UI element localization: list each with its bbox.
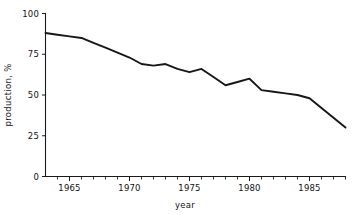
y-tick-label-50: 50 [28,90,39,100]
x-tick-label-1975: 1975 [178,183,200,193]
x-axis-title: year [175,200,195,210]
x-tick-label-1980: 1980 [238,183,260,193]
x-tick-label-1970: 1970 [118,183,140,193]
y-tick-label-0: 0 [33,172,39,182]
x-axis-ticks [58,177,346,182]
y-axis-title: production, % [3,63,13,126]
y-tick-label-75: 75 [28,49,39,59]
line-chart: 0255075100 19651970197519801985 year pro… [0,0,356,215]
x-axis-tick-labels: 19651970197519801985 [58,183,320,193]
production-line-series [46,33,346,128]
y-axis-tick-labels: 0255075100 [22,9,39,182]
chart-figure: 0255075100 19651970197519801985 year pro… [0,0,356,215]
y-tick-label-25: 25 [28,131,39,141]
y-tick-label-100: 100 [22,9,39,19]
x-tick-label-1985: 1985 [298,183,320,193]
x-tick-label-1965: 1965 [58,183,80,193]
